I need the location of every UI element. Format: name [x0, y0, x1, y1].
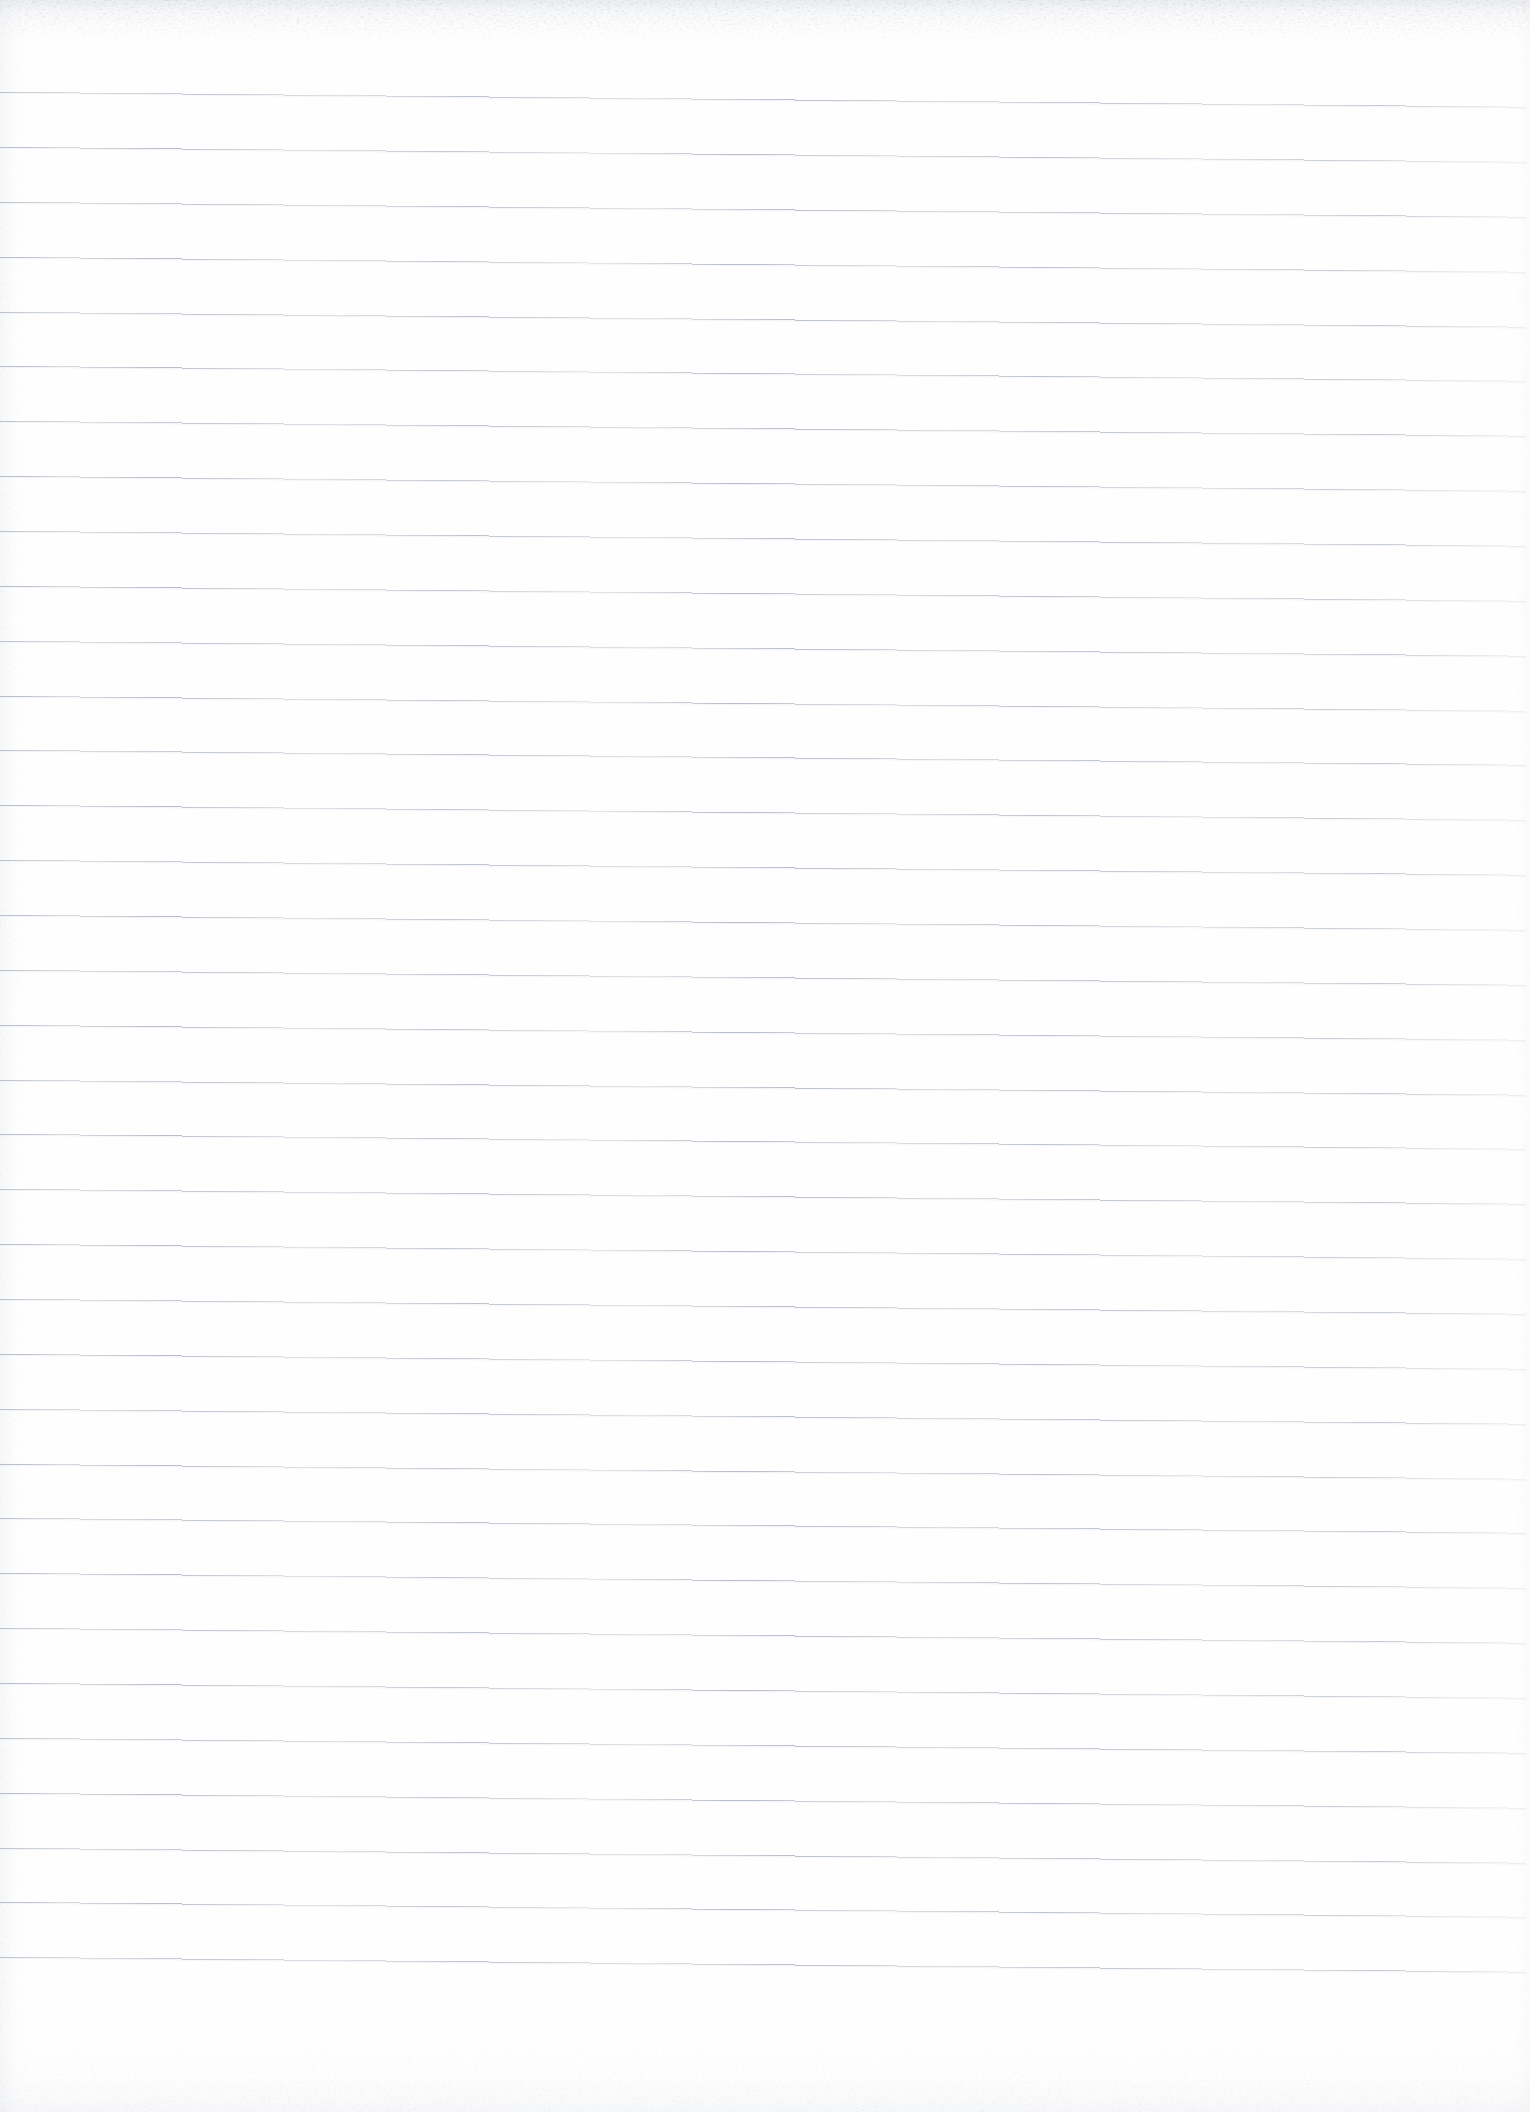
- torn-top-edge: [0, 0, 1530, 46]
- bottom-edge-shadow: [0, 2042, 1530, 2112]
- top-edge-shadow: [0, 0, 1530, 40]
- writing-area[interactable]: [0, 100, 1530, 1980]
- scanned-notebook-page: [0, 0, 1530, 2112]
- bottom-edge-texture: [0, 1992, 1530, 2112]
